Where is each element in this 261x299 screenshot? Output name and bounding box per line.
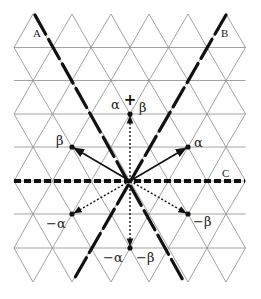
root-system-diagram: + A B C α β β α −α −β −α −β — [0, 0, 261, 299]
label-beta: β — [56, 133, 64, 148]
label-alpha-top: α — [111, 97, 120, 112]
point-alpha — [185, 144, 190, 149]
point-minus-beta — [185, 211, 190, 216]
vector-beta — [74, 148, 130, 181]
label-c: C — [222, 167, 229, 179]
point-beta — [69, 144, 74, 149]
label-b: B — [221, 27, 228, 39]
label-a: A — [33, 27, 41, 39]
point-alpha-plus-beta — [127, 111, 132, 116]
point-origin — [128, 179, 133, 184]
label-minus-alpha: −α — [46, 216, 66, 231]
label-minus-beta: −β — [193, 214, 211, 229]
label-minus-beta-bottom: −β — [136, 250, 154, 265]
plus-marker: + — [124, 91, 137, 109]
label-minus-alpha-bottom: −α — [103, 250, 123, 265]
label-alpha: α — [194, 135, 203, 150]
point-minus-alpha — [69, 211, 74, 216]
label-beta-top: β — [139, 100, 147, 115]
line-a — [35, 15, 184, 282]
point-minus-alpha-minus-beta — [127, 245, 132, 250]
